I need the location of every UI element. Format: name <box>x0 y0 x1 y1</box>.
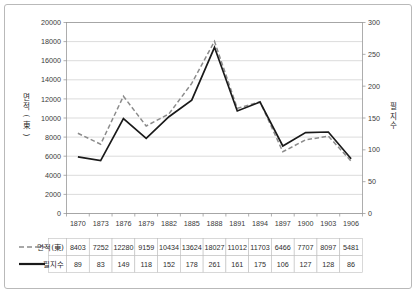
x-axis-tick-label: 1876 <box>115 219 131 228</box>
table-cell-value: 8097 <box>320 243 336 252</box>
y-axis-left-title-char: 면 <box>23 92 30 102</box>
x-axis-tick-label: 1891 <box>229 219 245 228</box>
y-axis-left-tick-label: 6000 <box>45 152 61 161</box>
y-axis-right-tick-label: 250 <box>368 50 380 59</box>
table-row-label-area: 면적(東) <box>37 243 64 252</box>
table-cell-value: 118 <box>140 260 151 269</box>
y-axis-left-tick-label: 16000 <box>41 56 61 65</box>
y-axis-left-tick-label: 12000 <box>41 95 61 104</box>
x-axis-tick-label: 1873 <box>93 219 109 228</box>
table-cell-value: 152 <box>163 260 175 269</box>
y-axis-left-title-char: 적 <box>23 101 30 111</box>
x-axis-tick-label: 1888 <box>207 219 223 228</box>
table-cell-value: 9159 <box>138 243 154 252</box>
y-axis-right-title-char: 필 <box>390 101 397 111</box>
table-cell-value: 11012 <box>228 243 247 252</box>
table-cell-value: 149 <box>117 260 129 269</box>
x-axis-tick-label: 1906 <box>343 219 359 228</box>
y-axis-left-tick-label: 14000 <box>41 75 61 84</box>
table-row-label-count: 필지수 <box>43 260 64 269</box>
y-axis-left-tick-label: 20000 <box>41 18 61 27</box>
y-axis-left-tick-label: 2000 <box>45 190 61 199</box>
table-cell-value: 8403 <box>70 243 86 252</box>
table-cell-value: 6466 <box>275 243 291 252</box>
x-axis-tick-label: 1903 <box>320 219 336 228</box>
y-axis-left-title-char: ) <box>22 133 31 136</box>
y-axis-right-tick-label: 100 <box>368 145 380 154</box>
table-cell-value: 13624 <box>182 243 202 252</box>
table-cell-value: 7707 <box>298 243 314 252</box>
table-cell-value: 5481 <box>343 243 359 252</box>
y-axis-left-tick-label: 10000 <box>41 114 61 123</box>
y-axis-right-tick-label: 50 <box>368 177 376 186</box>
table-cell-value: 127 <box>300 260 312 269</box>
x-axis-tick-label: 1885 <box>184 219 200 228</box>
y-axis-left-title-char: 東 <box>23 120 31 130</box>
y-axis-left-tick-label: 18000 <box>41 37 61 46</box>
x-axis-tick-label: 1897 <box>275 219 291 228</box>
table-cell-value: 10434 <box>159 243 179 252</box>
y-axis-left-tick-label: 0 <box>57 209 61 218</box>
y-axis-left-tick-label: 4000 <box>45 171 61 180</box>
chart-figure: 0200040006000800010000120001400016000180… <box>0 0 416 293</box>
table-cell-value: 161 <box>231 260 243 269</box>
table-cell-value: 86 <box>347 260 355 269</box>
x-axis-tick-label: 1879 <box>138 219 154 228</box>
table-cell-value: 11703 <box>250 243 269 252</box>
y-axis-left-tick-label: 8000 <box>45 133 61 142</box>
table-cell-value: 175 <box>254 260 266 269</box>
table-cell-value: 83 <box>97 260 105 269</box>
x-axis-tick-label: 1900 <box>298 219 314 228</box>
x-axis-tick-label: 1870 <box>70 219 86 228</box>
x-axis-tick-label: 1882 <box>161 219 177 228</box>
table-cell-value: 7252 <box>93 243 109 252</box>
y-axis-left-title-char: ( <box>22 115 31 118</box>
table-cell-value: 178 <box>186 260 198 269</box>
y-axis-right-tick-label: 300 <box>368 18 380 27</box>
x-axis-tick-label: 1894 <box>252 219 268 228</box>
y-axis-right-title-char: 지 <box>390 112 397 121</box>
table-cell-value: 261 <box>209 260 221 269</box>
table-cell-value: 128 <box>322 260 334 269</box>
table-cell-value: 106 <box>277 260 289 269</box>
combo-line-chart: 0200040006000800010000120001400016000180… <box>0 0 416 293</box>
y-axis-right-title-char: 수 <box>390 121 397 130</box>
y-axis-right-tick-label: 200 <box>368 82 380 91</box>
table-cell-value: 18027 <box>205 243 225 252</box>
y-axis-right-tick-label: 150 <box>368 114 380 123</box>
table-cell-value: 89 <box>74 260 82 269</box>
y-axis-right-tick-label: 0 <box>368 209 372 218</box>
table-cell-value: 12280 <box>113 243 133 252</box>
